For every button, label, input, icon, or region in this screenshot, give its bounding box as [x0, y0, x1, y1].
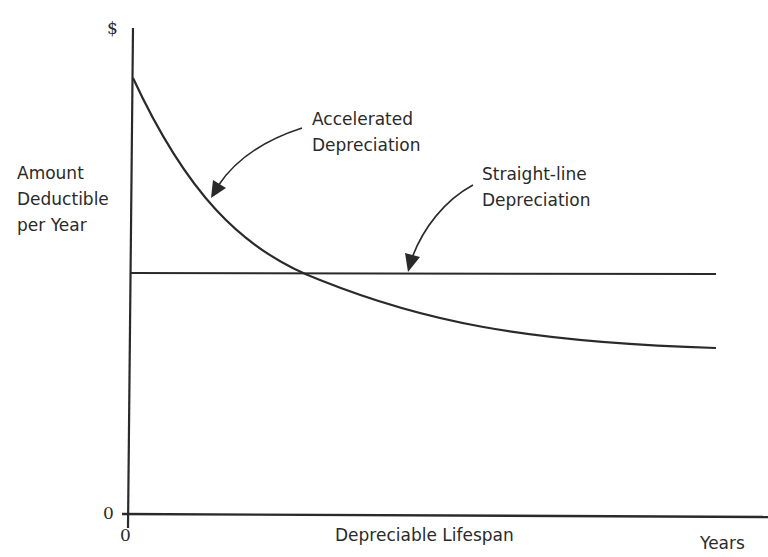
y-axis [128, 28, 133, 528]
straight-line-arrowhead-icon [405, 253, 420, 272]
accelerated-arrow [218, 128, 302, 186]
y-axis-label-line-2: Deductible [17, 186, 109, 212]
accelerated-arrowhead-icon [211, 180, 226, 198]
x-axis-label: Depreciable Lifespan [335, 522, 514, 548]
accelerated-series [133, 78, 716, 348]
y-unit-label: $ [107, 18, 118, 38]
x-axis [122, 514, 768, 517]
straight-line-series [131, 273, 716, 274]
x-tick-zero: 0 [120, 525, 131, 545]
accelerated-annotation: Accelerated Depreciation [312, 106, 420, 158]
chart-canvas [0, 0, 768, 557]
y-axis-label-line-3: per Year [17, 212, 109, 238]
straight-line-annotation-line-2: Depreciation [482, 187, 590, 213]
accelerated-annotation-line-2: Depreciation [312, 132, 420, 158]
straight-line-annotation: Straight-line Depreciation [482, 161, 590, 213]
y-tick-zero: 0 [103, 503, 114, 523]
accelerated-annotation-line-1: Accelerated [312, 106, 420, 132]
y-axis-label-line-1: Amount [17, 160, 109, 186]
straight-line-arrow [412, 185, 473, 258]
x-axis-unit-label: Years [700, 530, 745, 556]
straight-line-annotation-line-1: Straight-line [482, 161, 590, 187]
y-axis-label: Amount Deductible per Year [17, 160, 109, 238]
